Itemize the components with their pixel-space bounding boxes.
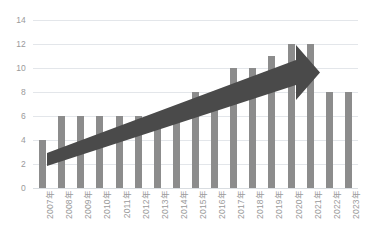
x-tick-label: 2023年 xyxy=(352,190,361,219)
x-tick-label: 2019年 xyxy=(275,190,284,219)
bar xyxy=(58,116,65,188)
x-tick-label: 2009年 xyxy=(84,190,93,219)
y-tick-label: 14 xyxy=(2,16,26,25)
gridline-0 xyxy=(33,188,358,189)
x-tick-label: 2012年 xyxy=(142,190,151,219)
x-tick-label: 2020年 xyxy=(295,190,304,219)
bar xyxy=(307,44,314,188)
y-tick-label: 10 xyxy=(2,64,26,73)
x-tick-label: 2007年 xyxy=(46,190,55,219)
y-tick-label: 6 xyxy=(2,112,26,121)
x-tick-label: 2016年 xyxy=(218,190,227,219)
y-tick-label: 2 xyxy=(2,160,26,169)
x-tick-label: 2017年 xyxy=(237,190,246,219)
bar xyxy=(135,116,142,188)
bar xyxy=(230,68,237,188)
bar xyxy=(39,140,46,188)
bar xyxy=(154,116,161,188)
x-tick-label: 2015年 xyxy=(199,190,208,219)
bar xyxy=(249,68,256,188)
x-axis-tick-labels: 2007年2008年2009年2010年2011年2012年2013年2014年… xyxy=(33,190,358,236)
x-tick-label: 2021年 xyxy=(314,190,323,219)
x-tick-label: 2014年 xyxy=(180,190,189,219)
x-tick-label: 2022年 xyxy=(333,190,342,219)
x-tick-label: 2008年 xyxy=(65,190,74,219)
y-tick-label: 0 xyxy=(2,184,26,193)
y-tick-label: 4 xyxy=(2,136,26,145)
bar-series xyxy=(33,20,358,188)
bar xyxy=(345,92,352,188)
bar xyxy=(288,44,295,188)
x-tick-label: 2010年 xyxy=(103,190,112,219)
bar xyxy=(326,92,333,188)
x-tick-label: 2011年 xyxy=(123,190,132,218)
bar xyxy=(268,56,275,188)
bar xyxy=(173,116,180,188)
y-tick-label: 8 xyxy=(2,88,26,97)
x-tick-label: 2018年 xyxy=(256,190,265,219)
plot-area xyxy=(33,20,358,188)
bar xyxy=(96,116,103,188)
bar xyxy=(192,92,199,188)
bar-chart: 14 12 10 8 6 4 2 0 2007年2008年2009年2010年2… xyxy=(0,0,365,236)
bar xyxy=(116,116,123,188)
y-tick-label: 12 xyxy=(2,40,26,49)
x-tick-label: 2013年 xyxy=(161,190,170,219)
bar xyxy=(77,116,84,188)
bar xyxy=(211,92,218,188)
